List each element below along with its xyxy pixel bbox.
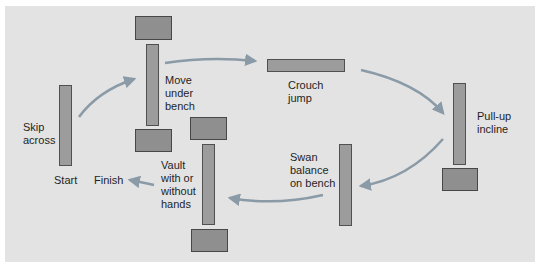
vault-bottom-box [191,229,228,252]
start-label: Start [54,174,77,187]
swan-balance-label: Swan balance on bench [290,151,335,190]
skip-across-label: Skip across [23,121,55,147]
arrow-swan-to-vault [230,195,323,201]
crouch-jump-bench [267,59,345,72]
finish-label: Finish [94,174,123,187]
move-under-bench [146,44,159,126]
arrow-skip-to-move [79,79,134,117]
arrow-pullup-to-swan [361,139,443,186]
pull-up-incline-label: Pull-up incline [477,110,511,136]
swan-balance-bench [339,144,352,226]
arrow-crouch-to-pullup [361,70,443,113]
vault-top-box [190,117,227,140]
vault-label: Vault with or without hands [161,159,196,211]
move-under-top-box [135,16,172,40]
arrow-vault-to-finish [130,180,154,185]
arrow-move-to-crouch [165,59,255,63]
vault-bench [202,144,215,225]
pull-up-box [442,168,478,191]
move-under-bottom-box [135,129,172,152]
move-under-bench-label: Move under bench [165,74,195,113]
skip-across-bench [59,85,72,166]
crouch-jump-label: Crouch jump [288,79,323,105]
pull-up-bench [453,83,466,165]
